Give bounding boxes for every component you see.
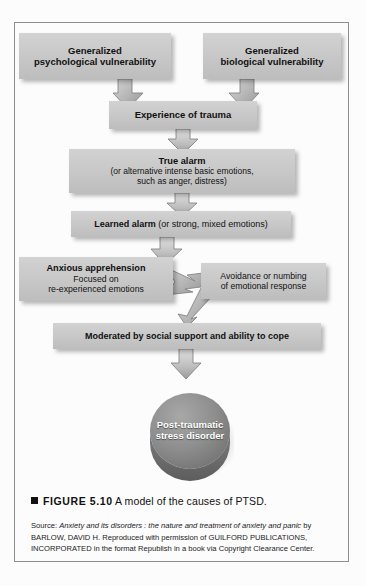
caption-square-icon [31, 497, 38, 504]
figure-source: Source: Anxiety and its disorders : the … [31, 520, 341, 555]
box-psych-line2: psychological vulnerability [23, 56, 167, 67]
figure-caption: FIGURE 5.10 A model of the causes of PTS… [31, 495, 337, 507]
box-generalized-biological-vulnerability: Generalized biological vulnerability [203, 33, 341, 79]
box-generalized-psychological-vulnerability: Generalized psychological vulnerability [19, 33, 171, 79]
box-learned-sub: (or strong, mixed emotions) [156, 219, 268, 229]
ptsd-disc-shape [146, 385, 234, 481]
source-prefix: Source: [31, 521, 59, 530]
box-anxious-apprehension: Anxious apprehension Focused on re-exper… [19, 257, 173, 301]
caption-figure-label: FIGURE 5.10 [43, 495, 113, 507]
source-title: Anxiety and its disorders : the nature a… [59, 521, 301, 530]
box-learned-alarm: Learned alarm (or strong, mixed emotions… [71, 211, 291, 237]
box-true-alarm: True alarm (or alternative intense basic… [69, 149, 295, 193]
figure-frame: Generalized psychological vulnerability … [14, 22, 349, 562]
box-psych-line1: Generalized [23, 45, 167, 56]
box-anxious-line3: re-experienced emotions [23, 284, 169, 294]
box-trauma-label: Experience of trauma [113, 109, 253, 120]
box-experience-of-trauma: Experience of trauma [109, 101, 257, 129]
box-truealarm-sub-line2: such as anger, distress) [73, 176, 291, 186]
figure-page: Generalized psychological vulnerability … [0, 0, 366, 586]
box-avoid-line1: Avoidance or numbing [205, 271, 322, 281]
box-anxious-title: Anxious apprehension [23, 263, 169, 274]
box-anxious-line2: Focused on [23, 274, 169, 284]
box-bio-line2: biological vulnerability [207, 56, 337, 67]
caption-text: A model of the causes of PTSD. [113, 495, 267, 507]
box-avoid-line2: of emotional response [205, 281, 322, 291]
box-moderated-by-social-support: Moderated by social support and ability … [53, 323, 321, 349]
box-truealarm-sub-line1: (or alternative intense basic emotions, [73, 166, 291, 176]
arrow-moderated-to-ptsd [171, 349, 201, 379]
box-avoidance-or-numbing: Avoidance or numbing of emotional respon… [201, 263, 326, 299]
box-moderated-label: Moderated by social support and ability … [57, 331, 317, 342]
box-learned-title: Learned alarm [94, 219, 156, 229]
box-truealarm-title: True alarm [73, 156, 291, 167]
box-bio-line1: Generalized [207, 45, 337, 56]
